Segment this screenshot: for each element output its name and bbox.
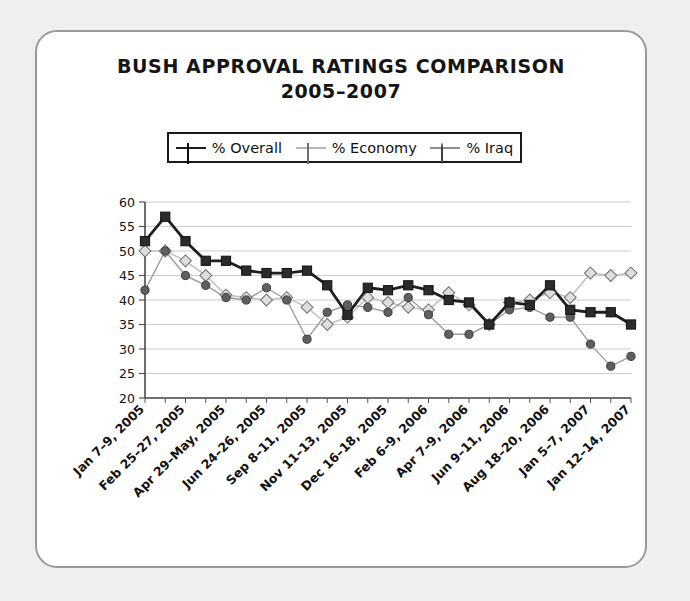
data-point[interactable] [201, 256, 210, 265]
data-point[interactable] [424, 311, 432, 319]
data-point[interactable] [161, 212, 170, 221]
data-point[interactable] [402, 301, 414, 313]
y-tick-label: 60 [119, 195, 135, 210]
data-point[interactable] [141, 286, 149, 294]
data-point[interactable] [545, 281, 554, 290]
data-point[interactable] [546, 313, 554, 321]
data-point[interactable] [465, 330, 473, 338]
data-point[interactable] [606, 308, 615, 317]
data-point[interactable] [202, 281, 210, 289]
data-point[interactable] [505, 298, 514, 307]
y-tick-label: 30 [119, 342, 135, 357]
data-point[interactable] [161, 247, 169, 255]
x-tick-label: Feb 6–9, 2006 [351, 401, 431, 481]
y-tick-label: 40 [119, 293, 135, 308]
data-point[interactable] [625, 267, 637, 279]
data-point[interactable] [343, 301, 351, 309]
data-point[interactable] [586, 308, 595, 317]
x-tick-label: Jan 5–7, 2007 [515, 402, 593, 480]
data-point[interactable] [139, 245, 151, 257]
data-point[interactable] [140, 237, 149, 246]
data-point[interactable] [181, 271, 189, 279]
data-point[interactable] [323, 281, 332, 290]
data-point[interactable] [282, 268, 291, 277]
data-point[interactable] [343, 310, 352, 319]
data-point[interactable] [404, 281, 413, 290]
data-point[interactable] [261, 294, 273, 306]
data-point[interactable] [303, 335, 311, 343]
data-point[interactable] [242, 296, 250, 304]
y-tick-label: 20 [119, 391, 135, 406]
data-point[interactable] [566, 305, 575, 314]
data-point[interactable] [181, 237, 190, 246]
data-point[interactable] [586, 340, 594, 348]
data-point[interactable] [383, 286, 392, 295]
chart-svg: 202530354045505560Jan 7–9, 2005Feb 25–27… [37, 32, 649, 570]
y-tick-label: 50 [119, 244, 135, 259]
data-point[interactable] [404, 293, 412, 301]
x-tick-label: Jan 7–9, 2005 [69, 402, 147, 480]
data-point[interactable] [627, 352, 635, 360]
data-point[interactable] [384, 308, 392, 316]
data-point[interactable] [363, 283, 372, 292]
data-point[interactable] [283, 296, 291, 304]
chart-plot-area: 202530354045505560Jan 7–9, 2005Feb 25–27… [37, 32, 649, 570]
data-point[interactable] [364, 303, 372, 311]
data-point[interactable] [605, 270, 617, 282]
y-tick-label: 55 [119, 219, 135, 234]
data-point[interactable] [262, 284, 270, 292]
y-tick-label: 45 [119, 268, 135, 283]
data-point[interactable] [424, 286, 433, 295]
x-tick-label: Apr 7–9, 2006 [392, 401, 471, 480]
data-point[interactable] [382, 297, 394, 309]
data-point[interactable] [464, 298, 473, 307]
y-tick-label: 25 [119, 366, 135, 381]
y-tick-label: 35 [119, 317, 135, 332]
data-point[interactable] [302, 266, 311, 275]
data-point[interactable] [222, 293, 230, 301]
data-point[interactable] [485, 320, 494, 329]
data-point[interactable] [445, 330, 453, 338]
data-point[interactable] [180, 255, 192, 267]
chart-card: BUSH APPROVAL RATINGS COMPARISON 2005–20… [35, 30, 647, 568]
data-point[interactable] [626, 320, 635, 329]
data-point[interactable] [242, 266, 251, 275]
data-point[interactable] [221, 256, 230, 265]
data-point[interactable] [444, 295, 453, 304]
data-point[interactable] [607, 362, 615, 370]
data-point[interactable] [525, 300, 534, 309]
data-point[interactable] [262, 268, 271, 277]
data-point[interactable] [323, 308, 331, 316]
